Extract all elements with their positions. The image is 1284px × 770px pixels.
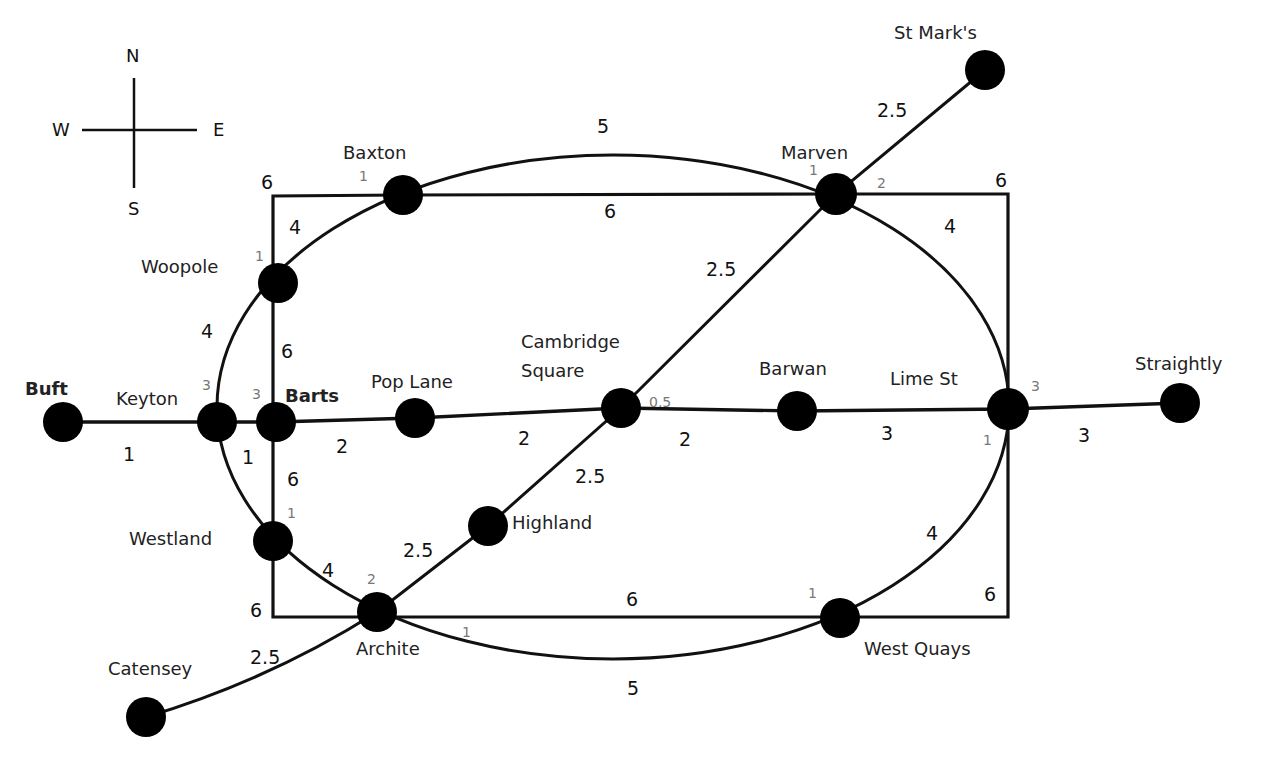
edge-weight: 6 — [626, 590, 638, 609]
station-label-pop-lane: Pop Lane — [371, 373, 453, 391]
station-westland[interactable] — [253, 521, 293, 561]
interchange-time: 1 — [809, 163, 818, 177]
station-buft[interactable] — [43, 402, 83, 442]
station-label-st-marks: St Mark's — [894, 24, 977, 42]
interchange-time: 2 — [367, 572, 376, 586]
station-catensey[interactable] — [126, 697, 166, 737]
edge-weight: 2 — [336, 437, 348, 456]
network-diagram — [0, 0, 1284, 770]
interchange-time: 0.5 — [649, 395, 671, 409]
edge-weight: 6 — [995, 171, 1007, 190]
station-label-cambridge-line1: Cambridge — [521, 333, 620, 351]
edge-weight: 4 — [944, 217, 956, 236]
compass-east: E — [213, 121, 224, 139]
station-label-marven: Marven — [781, 144, 848, 162]
edge-weight: 4 — [322, 561, 334, 580]
compass-north: N — [126, 47, 139, 65]
edge-weight: 2 — [518, 429, 530, 448]
edge-weight: 2.5 — [877, 101, 907, 120]
station-highland[interactable] — [468, 506, 508, 546]
station-label-cambridge-line2: Square — [521, 362, 584, 380]
interchange-time: 1 — [255, 249, 264, 263]
interchange-time: 2 — [877, 176, 886, 190]
interchange-time: 1 — [983, 433, 992, 447]
edge-weight: 1 — [123, 445, 135, 464]
interchange-time: 3 — [252, 387, 261, 401]
edge-weight: 6 — [281, 342, 293, 361]
station-archite[interactable] — [357, 592, 397, 632]
station-marven[interactable] — [815, 173, 857, 215]
edge-weight: 4 — [289, 218, 301, 237]
station-straightly[interactable] — [1160, 383, 1200, 423]
edge-weight: 6 — [604, 202, 616, 221]
edge-weight: 4 — [201, 322, 213, 341]
compass-south: S — [128, 200, 139, 218]
station-label-westland: Westland — [129, 530, 212, 548]
station-label-barts: Barts — [285, 387, 339, 405]
edge-weight: 2.5 — [403, 541, 433, 560]
station-label-woopole: Woopole — [141, 258, 218, 276]
edge-weight: 6 — [250, 601, 262, 620]
station-label-archite: Archite — [356, 640, 420, 658]
edge-weight: 6 — [287, 470, 299, 489]
station-label-catensey: Catensey — [108, 660, 192, 678]
edge-weight: 3 — [881, 424, 893, 443]
station-label-lime-st: Lime St — [890, 370, 958, 388]
edge-weight: 4 — [926, 524, 938, 543]
edge-weight: 5 — [627, 679, 639, 698]
station-label-barwan: Barwan — [759, 360, 827, 378]
station-keyton[interactable] — [197, 402, 237, 442]
compass-rose-icon — [82, 78, 197, 188]
edge-weight: 1 — [242, 448, 254, 467]
interchange-time: 1 — [808, 586, 817, 600]
edge-weight: 2.5 — [575, 467, 605, 486]
interchange-time: 3 — [202, 378, 211, 392]
interchange-time: 1 — [359, 169, 368, 183]
station-st-marks[interactable] — [965, 50, 1005, 90]
edge-weight: 2.5 — [706, 260, 736, 279]
edge-weight: 2 — [679, 430, 691, 449]
station-pop-lane[interactable] — [395, 398, 435, 438]
station-label-baxton: Baxton — [343, 144, 407, 162]
edge-weight: 6 — [261, 173, 273, 192]
station-label-straightly: Straightly — [1135, 355, 1222, 373]
edge-weight: 2.5 — [250, 648, 280, 667]
compass-west: W — [52, 121, 70, 139]
station-barts[interactable] — [256, 402, 296, 442]
station-lime-st[interactable] — [987, 388, 1029, 430]
edge-weight: 5 — [597, 117, 609, 136]
station-label-keyton: Keyton — [116, 390, 178, 408]
station-west-quays[interactable] — [820, 598, 860, 638]
station-barwan[interactable] — [777, 391, 817, 431]
interchange-time: 1 — [462, 625, 471, 639]
station-cambridge-square[interactable] — [601, 388, 641, 428]
station-label-west-quays: West Quays — [864, 640, 971, 658]
station-baxton[interactable] — [383, 175, 423, 215]
edge-weight: 3 — [1078, 426, 1090, 445]
station-label-buft: Buft — [25, 380, 68, 398]
interchange-time: 3 — [1031, 379, 1040, 393]
interchange-time: 1 — [287, 506, 296, 520]
station-woopole[interactable] — [258, 263, 298, 303]
station-label-highland: Highland — [512, 514, 592, 532]
edge-weight: 6 — [984, 585, 996, 604]
